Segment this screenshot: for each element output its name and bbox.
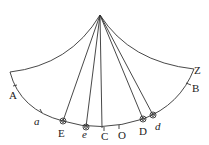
line-apex-d bbox=[100, 15, 153, 115]
label-e: e bbox=[82, 128, 87, 140]
label-D: D bbox=[139, 125, 147, 137]
line-apex-C bbox=[100, 15, 102, 128]
label-Z: Z bbox=[194, 64, 201, 76]
label-d: d bbox=[155, 120, 161, 132]
tick-A bbox=[13, 85, 17, 86]
line-apex-D bbox=[100, 15, 143, 119]
left-cusp-curve bbox=[10, 15, 100, 72]
label-O: O bbox=[118, 129, 126, 141]
label-a: a bbox=[34, 115, 40, 127]
label-B: B bbox=[192, 82, 199, 94]
label-A: A bbox=[9, 89, 17, 101]
line-apex-E bbox=[63, 15, 100, 121]
label-C: C bbox=[101, 130, 108, 142]
label-E: E bbox=[58, 127, 65, 139]
diagram-canvas: A a E e C O D d B Z bbox=[0, 0, 209, 145]
